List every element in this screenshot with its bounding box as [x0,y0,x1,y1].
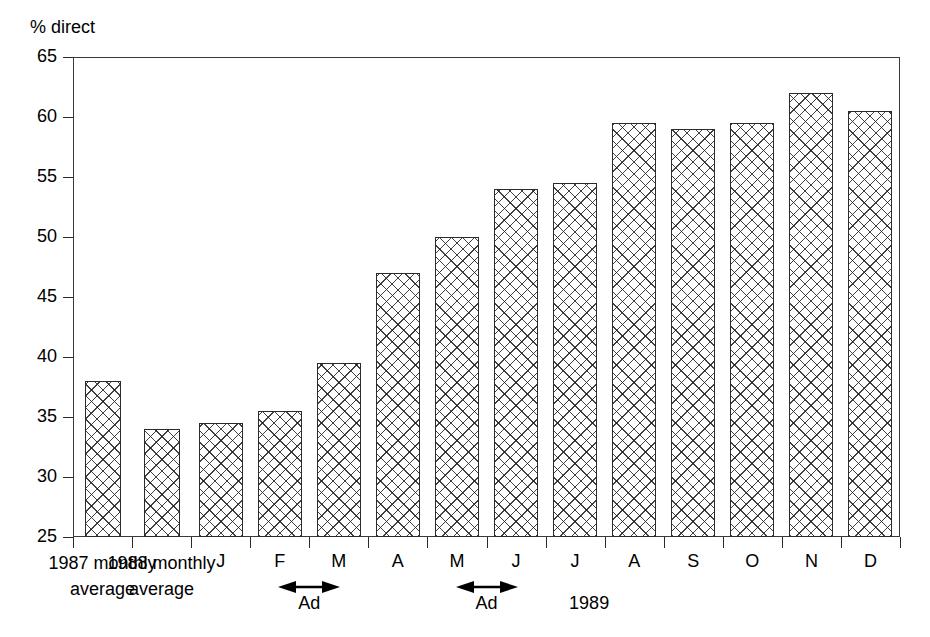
y-tick-mark [63,57,73,58]
x-axis-label: O [723,550,782,572]
x-axis-label-line1: F [274,551,285,571]
x-axis-tick [723,537,724,548]
x-axis-label-line1: A [628,551,640,571]
x-axis-label-line1: D [864,551,877,571]
x-axis-tick [841,537,842,548]
x-axis-label-line2: average [67,576,257,602]
x-axis-label: A [368,550,427,572]
x-axis-label: F [250,550,309,572]
x-axis-label-line1: J [512,551,521,571]
x-axis-label-line1: J [216,551,225,571]
y-tick-mark [63,117,73,118]
y-tick-label: 55 [37,165,57,187]
x-axis-label: S [664,550,723,572]
x-axis-tick [900,537,901,548]
x-axis-tick [73,537,74,548]
bar [85,381,121,537]
y-tick-label: 50 [37,225,57,247]
y-tick-label: 30 [37,465,57,487]
bars-group [73,57,900,537]
x-axis-label: J [546,550,605,572]
x-axis-label-line1: S [687,551,699,571]
x-axis-tick [487,537,488,548]
x-axis-tick [191,537,192,548]
bar [494,189,538,537]
x-axis-tick [368,537,369,548]
bar [258,411,302,537]
bar [144,429,180,537]
y-tick-label: 40 [37,345,57,367]
x-axis-label-line1: J [571,551,580,571]
x-axis-label-line1: M [449,551,464,571]
x-axis-tick [546,537,547,548]
bar [317,363,361,537]
y-tick-mark [63,417,73,418]
x-axis-label: A [605,550,664,572]
x-axis-label-line1: A [392,551,404,571]
y-tick-mark [63,177,73,178]
bar [848,111,892,537]
x-axis-label-line1: O [745,551,759,571]
x-axis-label: D [841,550,900,572]
bar [199,423,243,537]
x-axis-label: J [487,550,546,572]
annotation-ad-2-label: Ad [456,592,518,614]
bar [435,237,479,537]
bar [671,129,715,537]
x-axis-tick [664,537,665,548]
x-axis-label-line1: N [805,551,818,571]
x-axis-label: N [782,550,841,572]
y-tick-mark [63,537,73,538]
bar [553,183,597,537]
x-axis-tick [309,537,310,548]
period-label-1989: 1989 [569,592,609,614]
x-axis-label: M [427,550,486,572]
y-tick-mark [63,237,73,238]
x-axis-tick [605,537,606,548]
y-tick-mark [63,357,73,358]
bar [730,123,774,537]
bar [376,273,420,537]
bar-chart: % direct 656055504540353025 1987 monthly… [0,0,930,637]
x-axis-label: M [309,550,368,572]
y-tick-mark [63,297,73,298]
y-tick-label: 65 [37,45,57,67]
y-tick-label: 45 [37,285,57,307]
y-tick-mark [63,477,73,478]
x-axis-tick [250,537,251,548]
y-tick-label: 25 [37,525,57,547]
x-axis-tick [782,537,783,548]
bar [789,93,833,537]
y-tick-label: 60 [37,105,57,127]
x-axis-label: J [191,550,250,572]
bar [612,123,656,537]
x-axis-tick [132,537,133,548]
annotation-ad-1-label: Ad [278,592,340,614]
x-axis-tick [427,537,428,548]
x-axis-label-line1: M [331,551,346,571]
y-axis-title: % direct [30,16,95,38]
y-tick-label: 35 [37,405,57,427]
